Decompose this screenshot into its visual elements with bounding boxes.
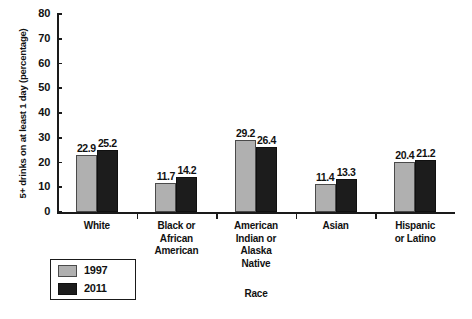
bar-1997-hispanic-or-latino: [394, 162, 415, 212]
y-axis-tick: [57, 186, 62, 188]
legend-label-1997: 1997: [84, 264, 107, 276]
bar-value-label: 25.2: [87, 137, 127, 149]
grouped-bar-chart: 5+ drinks on at least 1 day (percentage)…: [0, 0, 472, 319]
bar-2011-hispanic-or-latino: [415, 160, 436, 212]
y-axis-tick: [57, 112, 62, 114]
x-axis-tick: [216, 214, 218, 219]
bar-value-label: 26.4: [247, 134, 287, 146]
y-axis-tick: [57, 87, 62, 89]
x-axis-category-label: Hispanicor Latino: [372, 220, 458, 245]
bar-value-label: 13.3: [326, 166, 366, 178]
bar-2011-white: [97, 150, 118, 212]
x-axis-tick: [375, 214, 377, 219]
y-axis-tick-label: 30: [16, 131, 50, 143]
y-axis-tick: [57, 162, 62, 164]
bar-1997-white: [76, 155, 97, 212]
bar-value-label: 14.2: [167, 164, 207, 176]
y-axis-tick: [57, 38, 62, 40]
legend-label-2011: 2011: [84, 282, 107, 294]
y-axis-tick-label: 40: [16, 106, 50, 118]
x-axis-line: [57, 212, 455, 214]
x-axis-category-label: White: [54, 220, 140, 233]
y-axis-tick: [57, 63, 62, 65]
y-axis-tick: [57, 13, 62, 15]
x-axis-category-label: Asian: [293, 220, 379, 233]
x-axis-tick: [137, 214, 139, 219]
bar-2011-asian: [336, 179, 357, 212]
footer-text-fragment: [0, 311, 472, 319]
x-axis-tick: [296, 214, 298, 219]
bar-1997-black-or-african-american: [155, 183, 176, 212]
y-axis-tick-label: 10: [16, 180, 50, 192]
y-axis-tick-label: 20: [16, 156, 50, 168]
bar-2011-black-or-african-american: [176, 177, 197, 212]
bar-1997-american-indian-or-alaska-native: [235, 140, 256, 212]
legend: 1997 2011: [50, 259, 136, 300]
bar-2011-american-indian-or-alaska-native: [256, 147, 277, 212]
bar-1997-asian: [315, 184, 336, 212]
y-axis-tick: [57, 137, 62, 139]
legend-swatch-1997: [58, 265, 77, 277]
bar-value-label: 21.2: [406, 147, 446, 159]
x-axis-category-label: Black orAfricanAmerican: [133, 220, 219, 258]
y-axis-tick-label: 80: [16, 7, 50, 19]
legend-swatch-2011: [58, 283, 77, 295]
y-axis-tick-label: 0: [16, 205, 50, 217]
y-axis-tick-label: 50: [16, 81, 50, 93]
x-axis-title: Race: [226, 288, 286, 299]
y-axis-tick-label: 60: [16, 57, 50, 69]
x-axis-category-label: AmericanIndian orAlaskaNative: [213, 220, 299, 270]
y-axis-tick-label: 70: [16, 32, 50, 44]
